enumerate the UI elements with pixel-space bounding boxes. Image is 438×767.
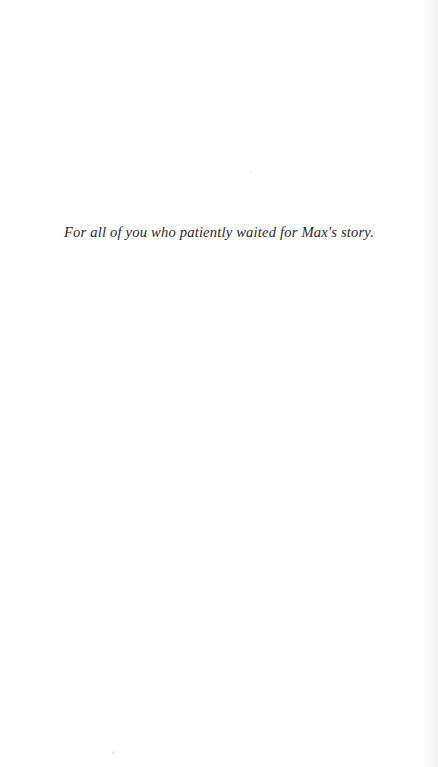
dedication-block: For all of you who patiently waited for …	[0, 222, 438, 242]
scan-speck-top	[249, 171, 252, 173]
book-page: For all of you who patiently waited for …	[0, 0, 438, 767]
page-content: For all of you who patiently waited for …	[0, 0, 438, 767]
scan-speck-bottom	[112, 751, 115, 754]
dedication-text: For all of you who patiently waited for …	[64, 222, 374, 242]
